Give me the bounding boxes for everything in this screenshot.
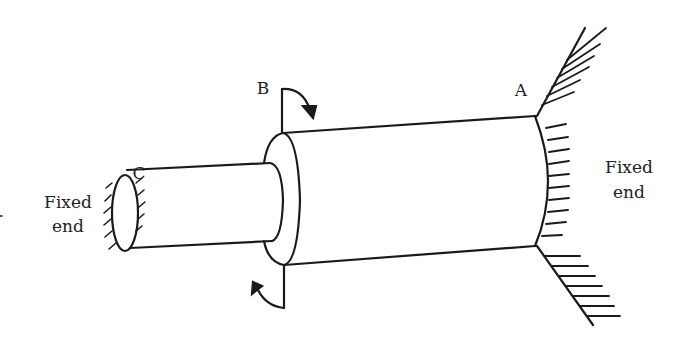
label-point-a: A xyxy=(511,80,531,100)
left-fixed-end-label-line1: Fixed xyxy=(33,192,103,212)
stepped-shaft-diagram xyxy=(0,0,691,352)
left-fixed-end-label-line2: end xyxy=(33,216,103,236)
right-fixed-end-label-line2: end xyxy=(594,182,664,202)
label-point-b: B xyxy=(253,78,273,98)
label-point-c: C xyxy=(129,163,149,183)
right-fixed-end-label-line1: Fixed xyxy=(594,157,664,177)
shaft-segment-ba xyxy=(264,116,548,265)
